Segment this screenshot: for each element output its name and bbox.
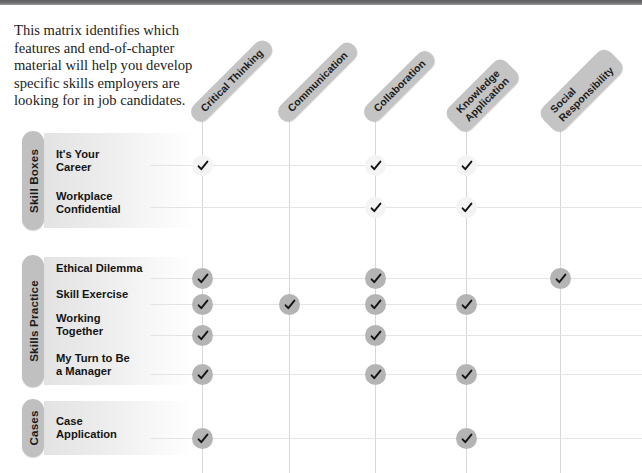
row-label-ethical-dilemma: Ethical Dilemma xyxy=(56,262,142,275)
top-divider-bar xyxy=(0,0,642,5)
checkmark-case-application-knowledge-application xyxy=(456,428,477,449)
column-header-knowledge-application: Knowledge Application xyxy=(443,56,522,135)
checkmark-it-s-your-career-collaboration xyxy=(365,155,386,176)
checkmark-my-turn-to-be-a-manager-knowledge-application xyxy=(456,364,477,385)
row-line-my-turn-to-be-a-manager xyxy=(150,374,642,375)
row-label-it-s-your-career: It's Your Career xyxy=(56,148,99,174)
row-line-workplace-confidential xyxy=(150,207,642,208)
checkmark-case-application-critical-thinking xyxy=(192,428,213,449)
row-label-case-application: Case Application xyxy=(56,415,117,441)
checkmark-it-s-your-career-critical-thinking xyxy=(192,155,213,176)
checkmark-my-turn-to-be-a-manager-collaboration xyxy=(365,364,386,385)
checkmark-skill-exercise-critical-thinking xyxy=(192,294,213,315)
checkmark-ethical-dilemma-collaboration xyxy=(365,268,386,289)
group-pill-label-skill-boxes: Skill Boxes xyxy=(27,148,40,212)
group-pill-skills-practice: Skills Practice xyxy=(22,255,44,387)
row-line-skill-exercise xyxy=(150,304,642,305)
checkmark-working-together-collaboration xyxy=(365,325,386,346)
checkmark-skill-exercise-communication xyxy=(279,294,300,315)
column-header-social-responsibility: Social Responsibility xyxy=(537,46,627,136)
group-pill-skill-boxes: Skill Boxes xyxy=(22,131,44,230)
skills-matrix: This matrix identifies which features an… xyxy=(0,0,642,473)
group-pill-cases: Cases xyxy=(22,399,44,457)
checkmark-it-s-your-career-knowledge-application xyxy=(456,155,477,176)
checkmark-workplace-confidential-collaboration xyxy=(365,197,386,218)
checkmark-workplace-confidential-knowledge-application xyxy=(456,197,477,218)
checkmark-skill-exercise-knowledge-application xyxy=(456,294,477,315)
checkmark-my-turn-to-be-a-manager-critical-thinking xyxy=(192,364,213,385)
checkmark-ethical-dilemma-critical-thinking xyxy=(192,268,213,289)
row-label-skill-exercise: Skill Exercise xyxy=(56,288,128,301)
group-pill-label-skills-practice: Skills Practice xyxy=(27,280,40,362)
row-line-working-together xyxy=(150,335,642,336)
row-line-case-application xyxy=(150,438,642,439)
intro-paragraph: This matrix identifies which features an… xyxy=(14,22,214,110)
row-label-working-together: Working Together xyxy=(56,312,103,338)
group-pill-label-cases: Cases xyxy=(27,410,40,445)
column-header-communication: Communication xyxy=(274,39,360,125)
checkmark-skill-exercise-collaboration xyxy=(365,294,386,315)
checkmark-ethical-dilemma-social-responsibility xyxy=(550,268,571,289)
checkmark-working-together-critical-thinking xyxy=(192,325,213,346)
column-header-collaboration: Collaboration xyxy=(360,47,438,125)
row-label-workplace-confidential: Workplace Confidential xyxy=(56,190,121,216)
row-line-it-s-your-career xyxy=(150,165,642,166)
row-label-my-turn-to-be-a-manager: My Turn to Be a Manager xyxy=(56,352,130,378)
